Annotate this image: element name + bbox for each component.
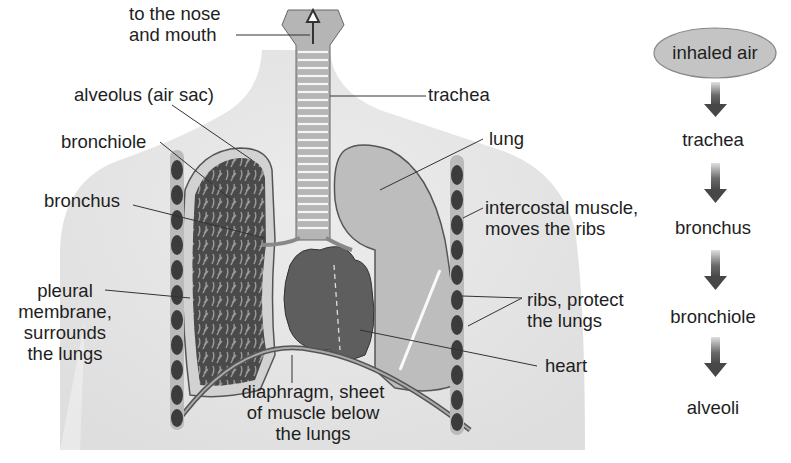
flow-step-bronchiole: bronchiole xyxy=(643,306,783,327)
respiratory-diagram: to the nose and mouth trachea alveolus (… xyxy=(0,0,791,463)
left-lung xyxy=(182,148,275,397)
flow-step-bronchus: bronchus xyxy=(643,217,783,238)
flow-step-trachea: trachea xyxy=(643,129,783,150)
label-lung: lung xyxy=(489,128,524,149)
flow-arrow-icon xyxy=(704,82,727,117)
label-alveolus: alveolus (air sac) xyxy=(74,84,214,105)
label-pleural-membrane: pleural membrane, surrounds the lungs xyxy=(14,280,116,364)
label-intercostal-muscle: intercostal muscle, moves the ribs xyxy=(485,197,638,239)
flow-arrow-icon xyxy=(704,163,727,203)
label-heart: heart xyxy=(545,355,587,376)
label-ribs: ribs, protect the lungs xyxy=(527,289,624,331)
label-nose-mouth: to the nose and mouth xyxy=(129,3,221,45)
label-bronchiole: bronchiole xyxy=(61,131,146,152)
flow-arrow-icon xyxy=(704,337,727,377)
label-diaphragm: diaphragm, sheet of muscle below the lun… xyxy=(232,381,394,444)
label-trachea: trachea xyxy=(428,84,490,105)
ribs-right xyxy=(450,155,464,435)
flow-step-alveoli: alveoli xyxy=(643,397,783,418)
ribs-left xyxy=(170,150,184,430)
flow-start-inhaled-air: inhaled air xyxy=(645,42,785,63)
label-bronchus: bronchus xyxy=(44,190,120,211)
flow-arrow-icon xyxy=(704,250,727,290)
